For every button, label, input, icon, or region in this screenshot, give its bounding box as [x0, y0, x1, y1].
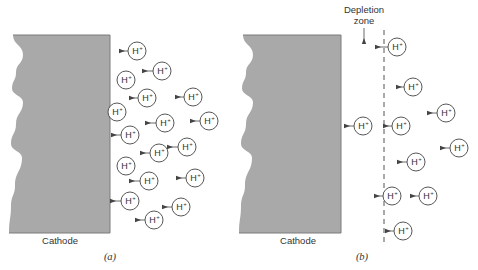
- ion-symbol: H: [125, 130, 132, 140]
- hydrogen-ion: H+: [384, 117, 410, 135]
- ion-symbol: H: [408, 82, 415, 92]
- ion-charge: +: [211, 115, 215, 121]
- hydrogen-ion: H+: [397, 78, 422, 96]
- ion-symbol: H: [396, 121, 403, 131]
- hydrogen-ion: H+: [146, 114, 174, 132]
- ion-charge: +: [195, 91, 199, 97]
- ion-symbol: H: [423, 191, 430, 201]
- electrochemistry-figure: H+H+H+H+H+H+H+H+H+H+H+H+H+H+H+H+H+ Catho…: [0, 0, 478, 270]
- ion-symbol: H: [149, 215, 156, 225]
- ion-charge: +: [167, 117, 171, 123]
- ion-symbol: H: [411, 157, 418, 167]
- hydrogen-ion: H+: [441, 139, 468, 157]
- ion-charge: +: [365, 120, 369, 126]
- hydrogen-ion: H+: [411, 187, 437, 205]
- ion-symbol: H: [188, 92, 195, 102]
- ion-charge: +: [132, 195, 136, 201]
- hydrogen-ion: H+: [136, 211, 163, 229]
- ion-symbol: H: [204, 116, 211, 126]
- hydrogen-ion: H+: [163, 198, 190, 216]
- ion-symbol: H: [358, 121, 365, 131]
- hydrogen-ion: H+: [130, 89, 156, 107]
- ion-symbol: H: [121, 75, 128, 85]
- ion-charge: +: [403, 120, 407, 126]
- cathode-label-b: Cathode: [280, 235, 316, 246]
- ions-group-a: H+H+H+H+H+H+H+H+H+H+H+H+H+H+H+H+H+: [108, 42, 218, 229]
- ion-charge: +: [394, 190, 398, 196]
- ion-charge: +: [128, 160, 132, 166]
- ion-charge: +: [405, 225, 409, 231]
- ion-charge: +: [448, 107, 452, 113]
- hydrogen-ion: H+: [117, 157, 135, 175]
- ion-symbol: H: [454, 143, 461, 153]
- hydrogen-ion: H+: [120, 42, 146, 60]
- ion-symbol: H: [160, 118, 167, 128]
- ion-charge: +: [189, 141, 193, 147]
- hydrogen-ion: H+: [112, 126, 139, 144]
- ion-charge: +: [139, 45, 143, 51]
- ion-charge: +: [461, 142, 465, 148]
- hydrogen-ion: H+: [141, 144, 168, 162]
- hydrogen-ion: H+: [177, 169, 204, 187]
- ion-charge: +: [156, 214, 160, 220]
- ion-charge: +: [161, 147, 165, 153]
- ion-symbol: H: [441, 108, 448, 118]
- ion-symbol: H: [157, 66, 164, 76]
- hydrogen-ion: H+: [143, 62, 171, 80]
- ion-symbol: H: [144, 176, 151, 186]
- ion-symbol: H: [112, 107, 119, 117]
- ion-charge: +: [430, 190, 434, 196]
- panel-label-b: (b): [356, 251, 369, 263]
- hydrogen-ion: H+: [191, 112, 218, 130]
- ion-symbol: H: [154, 148, 161, 158]
- ion-symbol: H: [132, 46, 139, 56]
- ion-symbol: H: [121, 161, 128, 171]
- ion-charge: +: [415, 81, 419, 87]
- ion-charge: +: [128, 74, 132, 80]
- ion-charge: +: [399, 41, 403, 47]
- ion-charge: +: [183, 201, 187, 207]
- ion-symbol: H: [190, 173, 197, 183]
- ion-symbol: H: [142, 93, 149, 103]
- cathode-a: [9, 35, 110, 233]
- hydrogen-ion: H+: [376, 38, 406, 56]
- ion-charge: +: [197, 172, 201, 178]
- hydrogen-ion: H+: [117, 71, 135, 89]
- hydrogen-ion: H+: [386, 222, 412, 240]
- panel-b: Depletion zone H+H+H+H+H+H+H+H+H+H+ Cath…: [239, 4, 468, 263]
- hydrogen-ion: H+: [375, 187, 401, 205]
- ion-charge: +: [164, 65, 168, 71]
- figure-canvas: H+H+H+H+H+H+H+H+H+H+H+H+H+H+H+H+H+ Catho…: [0, 0, 478, 270]
- panel-label-a: (a): [104, 251, 117, 263]
- panel-a: H+H+H+H+H+H+H+H+H+H+H+H+H+H+H+H+H+ Catho…: [9, 35, 218, 263]
- hydrogen-ion: H+: [345, 117, 372, 135]
- ion-symbol: H: [392, 42, 399, 52]
- ion-charge: +: [149, 92, 153, 98]
- hydrogen-ion: H+: [111, 192, 139, 210]
- ion-symbol: H: [182, 142, 189, 152]
- ions-group-b: H+H+H+H+H+H+H+H+H+H+: [345, 38, 468, 240]
- hydrogen-ion: H+: [168, 138, 196, 156]
- ion-symbol: H: [125, 196, 132, 206]
- ion-symbol: H: [176, 202, 183, 212]
- cathode-label-a: Cathode: [42, 235, 78, 246]
- depletion-zone-label-line2: zone: [354, 15, 375, 26]
- hydrogen-ion: H+: [398, 153, 425, 171]
- hydrogen-ion: H+: [176, 88, 202, 106]
- hydrogen-ion: H+: [108, 103, 126, 121]
- hydrogen-ion: H+: [428, 104, 455, 122]
- ion-symbol: H: [387, 191, 394, 201]
- cathode-b: [239, 35, 341, 233]
- ion-charge: +: [151, 175, 155, 181]
- hydrogen-ion: H+: [130, 172, 158, 190]
- ion-charge: +: [132, 129, 136, 135]
- ion-charge: +: [418, 156, 422, 162]
- ion-symbol: H: [398, 226, 405, 236]
- ion-charge: +: [119, 106, 123, 112]
- depletion-zone-label-line1: Depletion: [344, 4, 384, 15]
